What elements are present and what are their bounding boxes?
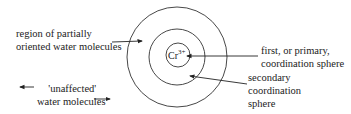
ion-symbol: Cr bbox=[168, 50, 178, 61]
unaffected-label: 'unaffected' water molecules bbox=[37, 82, 106, 108]
central-ion-label: Cr3+ bbox=[168, 47, 185, 62]
secondary-sphere-label: secondary coordination sphere bbox=[248, 71, 301, 110]
ion-charge: 3+ bbox=[178, 48, 185, 56]
secondary-sphere-arrow bbox=[190, 76, 247, 84]
primary-sphere-label: first, or primary, coordination sphere bbox=[261, 44, 344, 70]
oriented-region-label: region of partially oriented water molec… bbox=[16, 27, 122, 53]
